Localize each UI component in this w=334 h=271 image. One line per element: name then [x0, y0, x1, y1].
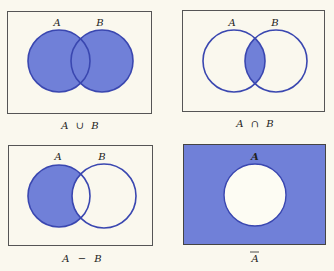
- set-b-label: B: [97, 151, 105, 162]
- panel-complement: A A: [184, 145, 326, 265]
- set-a-label: A: [250, 151, 259, 162]
- venn-diagram-figure: A B A ∪ B A B A ∩ B A B A − B: [0, 0, 334, 271]
- set-a-label: A: [53, 151, 61, 162]
- panel-union: A B A ∪ B: [8, 12, 152, 132]
- caption-intersection: A ∩ B: [235, 118, 273, 129]
- set-a-circle: [224, 164, 286, 226]
- set-b-label: B: [95, 17, 103, 28]
- caption-union: A ∪ B: [60, 120, 98, 131]
- set-a-label: A: [52, 17, 60, 28]
- set-b-label: B: [270, 17, 278, 28]
- set-a-label: A: [227, 17, 235, 28]
- caption-difference: A − B: [61, 253, 101, 264]
- panel-difference: A B A − B: [9, 146, 153, 265]
- panel-intersection: A B A ∩ B: [183, 11, 325, 130]
- caption-complement: A: [250, 253, 258, 264]
